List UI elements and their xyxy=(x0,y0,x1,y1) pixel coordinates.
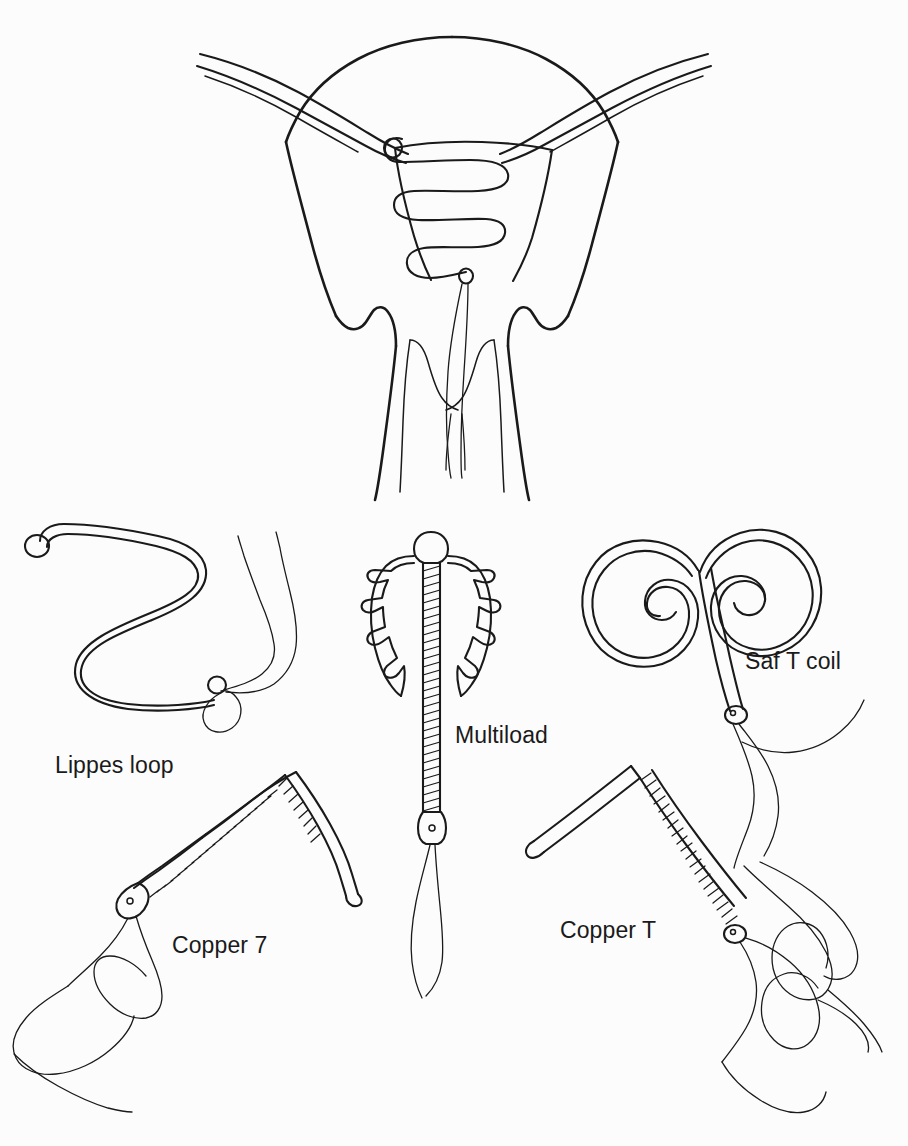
vaginal-wall-outer-left xyxy=(375,346,396,500)
iud-string-left xyxy=(447,284,463,478)
lippes-loop-string-b xyxy=(226,532,297,693)
multiload-arm-left xyxy=(371,556,414,696)
iud-string-distal-right xyxy=(462,414,465,470)
device-label-lippes-loop: Lippes loop xyxy=(55,752,174,779)
copper-7-shoulder-inner xyxy=(202,775,285,838)
copper-7-stem-upper-rail xyxy=(138,834,206,883)
multiload-crown xyxy=(414,532,448,563)
copper-7-arm-lower xyxy=(296,772,358,894)
saf-t-coil-trailing-loop-b xyxy=(760,862,857,979)
copper-7-long-thread-tail xyxy=(14,1054,132,1112)
multiload-copper-winding xyxy=(423,566,440,811)
multiload-string-eyelet xyxy=(429,825,435,831)
copper-t-string-eyelet xyxy=(731,930,736,935)
fallopian-tube-left-mid xyxy=(197,66,406,163)
vaginal-fornix-right xyxy=(446,340,494,410)
uterine-cavity-roof xyxy=(395,142,552,150)
copper-t-crossarm-upper xyxy=(534,766,631,841)
saf-t-coil-left-spiral-outer xyxy=(582,540,698,666)
copper-t-stem-right-rail xyxy=(652,770,746,898)
saf-t-coil-base-knot xyxy=(725,706,747,724)
saf-t-coil-left-spiral-inner xyxy=(592,551,692,658)
uterine-cavity-wall-right xyxy=(513,150,552,281)
copper-7-copper-winding xyxy=(150,778,320,897)
cervix-outer-left xyxy=(336,307,396,346)
lippes-loop-string-loop xyxy=(203,691,241,732)
vaginal-wall-outer-right xyxy=(508,346,529,500)
multiload-arm-left-spines xyxy=(362,563,414,696)
saf-t-coil-trailing-thread-upper xyxy=(742,700,864,753)
saf-t-coil-string-eyelet xyxy=(731,711,736,716)
multiload-arm-right-spines xyxy=(448,563,500,696)
device-label-copper-t: Copper T xyxy=(560,917,656,944)
copper-7-string-a xyxy=(68,918,128,986)
cervix-outer-right xyxy=(508,307,568,346)
lippes-loop-body-outer xyxy=(40,524,214,706)
lippes-loop-string-a xyxy=(224,536,275,690)
copper-7-arm-tip xyxy=(346,894,362,906)
saf-t-coil-right-spiral-inner xyxy=(706,540,813,649)
copper-t-string-tail-b xyxy=(818,1000,869,1052)
device-saf-t-coil xyxy=(582,530,882,1052)
device-label-copper-7: Copper 7 xyxy=(172,932,267,959)
device-multiload xyxy=(362,532,501,998)
lippes-loop-tip xyxy=(25,535,49,557)
iud-in-situ-device xyxy=(385,138,508,278)
device-label-saf-t-coil: Saf T coil xyxy=(745,648,841,675)
multiload-string-b xyxy=(426,845,443,996)
saf-t-coil-trailing-loop-a xyxy=(744,866,832,1000)
vaginal-fold-right xyxy=(494,340,504,492)
uterine-lateral-wall-right xyxy=(568,142,618,316)
uterine-lateral-wall-left xyxy=(286,142,336,316)
copper-t-string-a xyxy=(722,942,757,1062)
device-label-multiload: Multiload xyxy=(455,722,548,749)
iud-lower-knot xyxy=(459,269,473,284)
copper-t-crossarm-tip xyxy=(526,841,544,858)
copper-t-stem-left-rail xyxy=(640,778,734,906)
uterine-outer-wall-right xyxy=(452,37,618,142)
saf-t-coil-trailing-thread-tail xyxy=(828,990,882,1052)
copper-7-long-thread xyxy=(13,986,134,1074)
fallopian-tube-right-upper xyxy=(500,54,708,154)
copper-t-crossarm-lower xyxy=(544,778,640,852)
vaginal-fold-left xyxy=(400,340,410,492)
iud-figure: Lippes loop Multiload Saf T coil Copper … xyxy=(0,0,908,1146)
saf-t-coil-right-spiral-outer xyxy=(700,530,821,656)
copper-t-string-tail xyxy=(722,1062,826,1113)
device-lippes-loop xyxy=(25,524,297,732)
uterine-cavity-wall-left xyxy=(395,148,431,280)
iud-illustration-svg xyxy=(0,0,908,1146)
copper-7-string-eyelet xyxy=(127,898,133,904)
copper-t-junction xyxy=(631,766,640,778)
lippes-loop-body-inner xyxy=(47,534,214,711)
uterus-cross-section xyxy=(197,37,711,500)
copper-7-string-b xyxy=(94,916,162,1018)
multiload-string-a xyxy=(411,845,430,998)
multiload-base xyxy=(418,812,446,844)
multiload-arm-right xyxy=(448,556,491,696)
